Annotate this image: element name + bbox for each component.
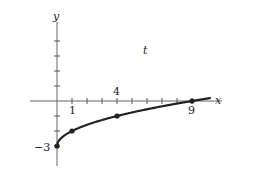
data-point [54, 143, 59, 148]
data-point [189, 98, 194, 103]
tick-label-neg3: −3 [34, 142, 50, 153]
tick-label-9: 9 [188, 105, 195, 116]
chart-figure: y x t 1 4 9 −3 [0, 0, 263, 176]
x-axis-label: x [215, 95, 221, 106]
data-point [69, 128, 74, 133]
tick-label-1: 1 [69, 105, 76, 116]
data-point [114, 113, 119, 118]
tick-label-4: 4 [113, 86, 120, 97]
annotation-label: t [143, 45, 147, 56]
y-axis-label: y [53, 11, 59, 22]
